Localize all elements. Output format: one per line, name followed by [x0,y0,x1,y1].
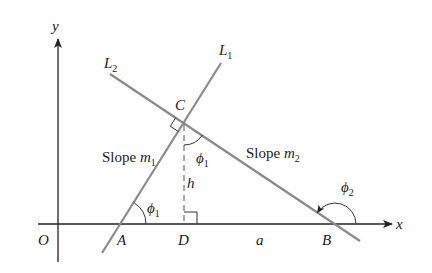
y-axis-label: y [50,18,59,34]
point-label-d: D [177,232,189,248]
angle-arc-phi2-b [318,203,356,224]
point-label-a: A [116,232,127,248]
right-angle-marker-d [184,212,197,224]
angle-label-phi1-a: ϕ1 [147,200,160,219]
perpendicular-lines-diagram: y x O L1 L2 A D B C h a ϕ1 ϕ1 ϕ2 Slope m… [0,0,432,273]
angle-label-phi1-c: ϕ1 [196,150,209,169]
point-label-c: C [175,97,186,113]
slope-label-m2: Slope m2 [246,145,300,164]
x-axis-label: x [395,216,403,232]
origin-label: O [38,232,49,248]
segment-label-h: h [187,175,195,191]
slope-label-m1: Slope m1 [102,149,156,168]
line-l1-label: L1 [218,42,232,61]
line-l2-label: L2 [103,55,117,74]
angle-label-phi2-b: ϕ2 [341,179,354,198]
segment-label-a: a [256,232,264,248]
point-label-b: B [322,232,331,248]
angle-arc-phi1-c [184,135,202,145]
angle-arc-phi1-a [134,203,146,224]
